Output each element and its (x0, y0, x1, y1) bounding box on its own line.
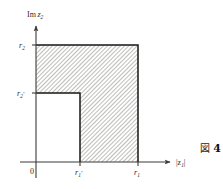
y-tick-label-r2-prime: r2′ (17, 89, 25, 99)
origin-label: 0 (30, 167, 34, 176)
diagram-canvas: Imz2 |z1| 0 r2 r2′ r1′ r1 (0, 0, 223, 189)
figure-number: 4 (213, 143, 221, 154)
figure-caption: 図 4 (200, 143, 221, 154)
figure-container: Imz2 |z1| 0 r2 r2′ r1′ r1 図 4 (0, 0, 223, 189)
x-tick-label-r1-prime: r1′ (75, 168, 83, 178)
x-tick-label-r1: r1 (134, 168, 140, 178)
y-tick-label-r2: r2 (19, 41, 25, 51)
y-axis-label: Imz2 (27, 10, 44, 20)
region-notch-outline (36, 93, 80, 162)
figure-label-glyph: 図 (200, 143, 210, 153)
hatched-region (36, 45, 138, 162)
x-axis-label: |z1| (176, 158, 185, 168)
